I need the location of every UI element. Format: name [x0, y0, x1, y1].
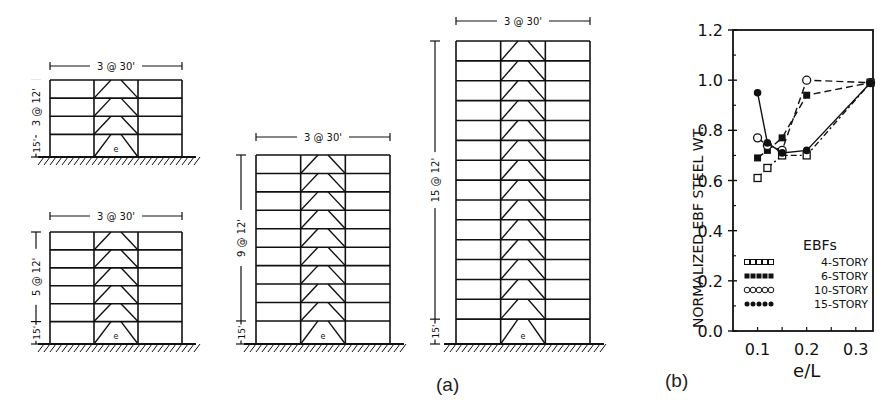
frame-6-story: e3 @ 30'5 @ 12'15'	[30, 209, 200, 352]
first-story-height-label: 15'	[32, 139, 42, 153]
legend: EBFs4-STORY6-STORY10-STORY15-STORY	[744, 237, 868, 311]
marker	[867, 79, 875, 87]
y-tick-label: 1.0	[698, 71, 723, 90]
bay-dimension-label: 3 @ 30'	[504, 16, 542, 27]
link-label: e	[114, 332, 119, 341]
marker	[764, 164, 771, 171]
bay-dimension-label: 3 @ 30'	[97, 61, 135, 72]
marker	[803, 92, 810, 99]
marker	[803, 76, 811, 84]
frame-4-story: e3 @ 30'3 @ 12'15'	[30, 59, 200, 165]
chart-b: 0.00.20.40.60.81.01.20.10.20.3e/LNORMALI…	[690, 21, 875, 381]
legend-title: EBFs	[803, 237, 837, 253]
part-a-label: (a)	[436, 374, 459, 396]
bay-dimension-label: 3 @ 30'	[304, 132, 342, 143]
story-height-label: 3 @ 12'	[31, 88, 42, 126]
legend-item-label: 6-STORY	[821, 270, 868, 283]
marker	[754, 154, 761, 161]
marker	[754, 134, 762, 142]
x-tick-label: 0.3	[843, 340, 868, 359]
bay-dimension-label: 3 @ 30'	[97, 211, 135, 222]
legend-item-label: 4-STORY	[821, 256, 868, 269]
first-story-height-label: 15'	[237, 326, 247, 340]
marker	[764, 139, 772, 147]
story-height-label: 15 @ 12'	[430, 158, 441, 203]
marker	[778, 149, 786, 157]
story-height-label: 9 @ 12'	[236, 219, 247, 257]
link-label: e	[521, 332, 526, 341]
series-4-story	[754, 79, 874, 181]
x-tick-label: 0.1	[745, 340, 770, 359]
frame-10-story: e3 @ 30'9 @ 12'15'	[235, 130, 406, 352]
series-6-story	[754, 79, 874, 161]
figure-canvas: e3 @ 30'3 @ 12'15'e3 @ 30'5 @ 12'15'e3 @…	[0, 0, 892, 415]
link-label: e	[114, 145, 119, 154]
first-story-height-label: 15'	[431, 325, 441, 339]
x-axis-label: e/L	[793, 360, 820, 381]
marker	[779, 134, 786, 141]
marker	[803, 147, 811, 155]
part-b-label: (b)	[665, 370, 688, 392]
frame-15-story: e3 @ 30'15 @ 12'15'	[429, 14, 606, 352]
marker	[754, 89, 762, 97]
legend-item-label: 15-STORY	[814, 298, 868, 311]
story-height-label: 5 @ 12'	[31, 258, 42, 296]
y-tick-label: 1.2	[698, 21, 723, 40]
x-tick-label: 0.2	[794, 340, 819, 359]
link-label: e	[321, 332, 326, 341]
first-story-height-label: 15'	[32, 326, 42, 340]
marker	[754, 174, 761, 181]
legend-item-label: 10-STORY	[814, 284, 868, 297]
y-axis-label: NORMALIZED EBF STEEL WT.	[690, 126, 706, 328]
